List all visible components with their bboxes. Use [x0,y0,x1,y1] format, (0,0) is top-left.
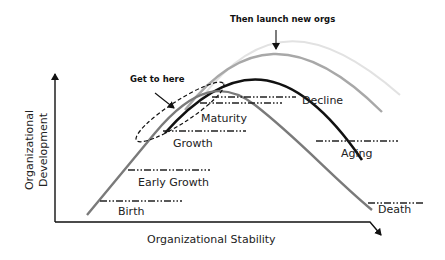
life-cycle-diagram: Birth Early Growth Growth Maturity Decli… [0,0,445,260]
y-axis-label-line2: Development [37,112,50,187]
get-to-here-arrow [155,93,174,108]
stage-death-label: Death [378,203,411,216]
x-axis-label: Organizational Stability [147,233,276,246]
y-axis-label-line1: Organizational [23,110,36,190]
y-axis-label: Organizational Development [23,110,50,190]
stage-decline-label: Decline [302,94,343,107]
then-launch-annotation: Then launch new orgs [230,14,335,24]
stage-growth-label: Growth [173,137,213,150]
stage-aging-label: Aging [341,147,373,160]
stage-birth-label: Birth [118,205,144,218]
stage-early-growth-label: Early Growth [138,176,209,189]
stage-maturity-label: Maturity [201,112,247,125]
get-to-here-annotation: Get to here [130,74,185,84]
curve-main-lifecycle [87,91,372,215]
